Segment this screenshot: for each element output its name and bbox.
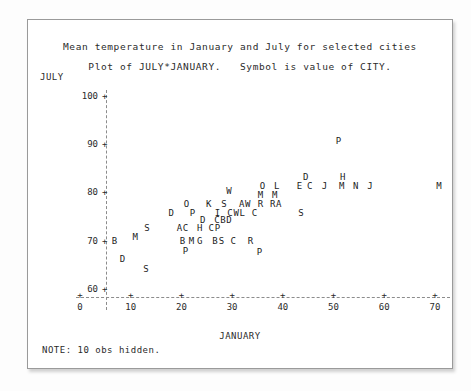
x-axis-tick-60: 60+ <box>374 302 394 312</box>
data-point: A <box>274 199 284 209</box>
plot-paper-frame: Mean temperature in January and July for… <box>27 19 453 369</box>
data-point: P <box>188 208 198 218</box>
data-point: G <box>195 236 205 246</box>
y-axis-tick-70: 70+ <box>68 236 98 246</box>
data-point: O <box>258 181 268 191</box>
data-point: R <box>245 236 255 246</box>
screenshot-page: Mean temperature in January and July for… <box>0 0 471 391</box>
data-point: C <box>305 181 315 191</box>
data-point: H <box>195 223 205 233</box>
data-point: P <box>334 136 344 146</box>
y-axis-label: JULY <box>40 72 64 82</box>
data-point: M <box>130 232 140 242</box>
data-point: P <box>254 247 264 257</box>
data-point: M <box>337 181 347 191</box>
data-point: C <box>228 236 238 246</box>
hidden-obs-note: NOTE: 10 obs hidden. <box>42 345 160 355</box>
data-point: P <box>180 246 190 256</box>
data-point: C <box>249 208 259 218</box>
x-axis-label: JANUARY <box>28 331 452 341</box>
y-axis-tick-80: 80+ <box>68 187 98 197</box>
tick-mark: + <box>102 187 110 197</box>
x-axis-tick-30: 30+ <box>222 302 242 312</box>
y-axis-line <box>106 90 107 310</box>
tick-mark: + <box>171 290 191 300</box>
data-point: S <box>142 223 152 233</box>
x-axis-tick-50: 50+ <box>324 302 344 312</box>
data-point: D <box>118 254 128 264</box>
tick-mark: + <box>425 290 445 300</box>
x-axis-tick-70: 70+ <box>425 302 445 312</box>
tick-mark: + <box>102 139 110 149</box>
tick-mark: + <box>102 91 110 101</box>
tick-mark: + <box>222 290 242 300</box>
y-axis-tick-100: 100+ <box>68 91 98 101</box>
data-point: J <box>365 181 375 191</box>
x-axis-tick-0: 0+ <box>70 302 90 312</box>
data-point: J <box>319 181 329 191</box>
y-axis-tick-90: 90+ <box>68 139 98 149</box>
data-point: P <box>212 223 222 233</box>
tick-mark: + <box>324 290 344 300</box>
tick-mark: + <box>70 290 90 300</box>
data-point: S <box>296 208 306 218</box>
tick-mark: + <box>374 290 394 300</box>
data-point: E <box>295 181 305 191</box>
data-point: S <box>216 236 226 246</box>
data-point: L <box>272 181 282 191</box>
x-axis-tick-40: 40+ <box>273 302 293 312</box>
data-point: C <box>180 223 190 233</box>
data-point: M <box>434 181 444 191</box>
tick-mark: + <box>121 290 141 300</box>
data-point: W <box>224 186 234 196</box>
x-axis-tick-20: 20+ <box>171 302 191 312</box>
tick-mark: + <box>273 290 293 300</box>
tick-mark: + <box>102 284 110 294</box>
scatter-plot-area: JULY 100+90+80+70+60+ 0+10+20+30+40+50+6… <box>28 20 452 368</box>
data-point: N <box>351 181 361 191</box>
x-axis-tick-10: 10+ <box>121 302 141 312</box>
data-point: D <box>166 208 176 218</box>
data-point: B <box>109 236 119 246</box>
data-point: L <box>237 208 247 218</box>
data-point: D <box>224 215 234 225</box>
data-point: S <box>141 264 151 274</box>
